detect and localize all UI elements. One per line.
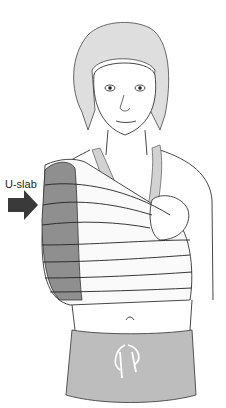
illustration	[0, 0, 226, 408]
face	[94, 63, 156, 135]
navel	[126, 317, 134, 320]
arrow-icon	[8, 190, 38, 220]
pants	[66, 330, 196, 403]
